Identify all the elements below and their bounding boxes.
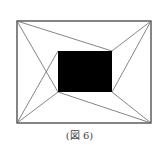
connector-line [112, 92, 151, 123]
connector-line [17, 51, 58, 123]
connector-line [17, 21, 112, 51]
figure-caption: (図 6) [0, 127, 159, 142]
connector-line [17, 92, 58, 123]
connector-line [58, 92, 151, 123]
connector-line [112, 21, 151, 92]
connector-line [112, 21, 151, 51]
inner-black-rectangle [58, 51, 112, 92]
